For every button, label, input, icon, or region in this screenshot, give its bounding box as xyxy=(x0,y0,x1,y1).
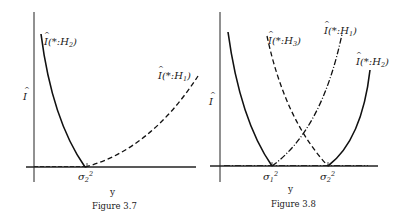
fig38-curve-h1 xyxy=(272,34,342,166)
figure-3-8: I(*:H3) ^ I(*:H1) ^ I(*:H2) ^ I ^ σ12 σ2… xyxy=(208,12,389,209)
figure-3-7: I(*:H2) ^ I(*:H1) ^ I ^ σ22 y Figure 3.7 xyxy=(22,12,198,211)
fig38-y-hat: ^ xyxy=(210,91,216,99)
fig38-hat-h1: ^ xyxy=(324,20,330,28)
fig37-y-hat: ^ xyxy=(24,86,30,94)
fig38-caption: Figure 3.8 xyxy=(271,199,316,209)
figures-canvas: I(*:H2) ^ I(*:H1) ^ I ^ σ22 y Figure 3.7… xyxy=(0,0,408,220)
fig38-tick-sigma2: σ22 xyxy=(320,170,335,184)
fig37-tick-sigma2: σ22 xyxy=(78,170,93,184)
fig38-hat-h3: ^ xyxy=(268,30,274,38)
fig38-curve-h2 xyxy=(328,70,370,166)
fig37-x-label: y xyxy=(109,187,116,197)
fig37-curve-h2 xyxy=(41,34,85,167)
fig38-tick-sigma1: σ12 xyxy=(263,170,278,184)
fig37-curve-h1 xyxy=(85,76,198,167)
fig38-hat-h2: ^ xyxy=(356,51,362,59)
fig37-hat-h2: ^ xyxy=(44,31,50,39)
fig38-curve-left-solid xyxy=(228,32,272,166)
fig38-curve-h3 xyxy=(267,36,328,166)
fig37-hat-h1: ^ xyxy=(158,65,164,73)
fig37-caption: Figure 3.7 xyxy=(92,201,137,211)
fig38-x-label: y xyxy=(287,184,294,194)
